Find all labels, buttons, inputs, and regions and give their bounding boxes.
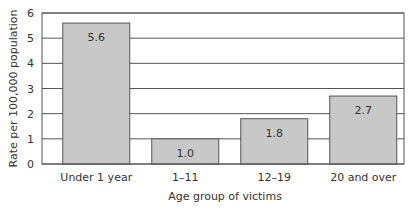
bar-chart: 5.61.01.82.7 0123456 Under 1 year1–1112–…	[0, 0, 412, 214]
bar-value-label: 1.8	[266, 127, 284, 140]
y-axis-ticks: 0123456	[27, 7, 34, 171]
x-tick-label: Under 1 year	[60, 171, 132, 184]
bars: 5.61.01.82.7	[63, 23, 397, 164]
y-tick-label: 1	[27, 133, 34, 146]
bar	[63, 23, 130, 164]
x-tick-label: 12–19	[258, 171, 292, 184]
bar-value-label: 5.6	[88, 31, 106, 44]
x-tick-label: 1–11	[172, 171, 199, 184]
bar-value-label: 2.7	[355, 104, 373, 117]
x-axis-ticks: Under 1 year1–1112–1920 and over	[60, 171, 396, 184]
x-axis-label: Age group of victims	[168, 190, 282, 203]
y-tick-label: 0	[27, 158, 34, 171]
y-axis-label: Rate per 100,000 population	[7, 9, 20, 167]
y-tick-label: 5	[27, 32, 34, 45]
y-tick-label: 3	[27, 83, 34, 96]
x-tick-label: 20 and over	[330, 171, 397, 184]
bar-value-label: 1.0	[177, 147, 195, 160]
bar	[241, 119, 308, 164]
y-tick-label: 4	[27, 57, 34, 70]
y-tick-label: 6	[27, 7, 34, 20]
y-tick-label: 2	[27, 108, 34, 121]
